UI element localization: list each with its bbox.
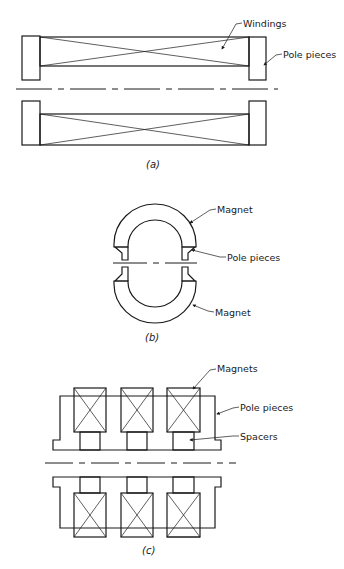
- label-magnet-bottom: Magnet: [215, 307, 251, 318]
- pole-pieces-lower: [53, 477, 221, 528]
- pole-piece-lower-left: [115, 267, 128, 281]
- lens-diagram: Windings Pole pieces (a) Magnet Pole pie…: [0, 0, 344, 569]
- label-pole-pieces-b: Pole pieces: [227, 252, 280, 263]
- spacer-lower-2: [127, 477, 147, 493]
- label-pole-pieces-c: Pole pieces: [240, 402, 293, 413]
- caption-a: (a): [146, 159, 160, 170]
- label-windings: Windings: [243, 18, 287, 29]
- pole-piece-upper-left: [115, 247, 128, 260]
- spacer-upper-3: [173, 432, 194, 450]
- caption-b: (b): [145, 332, 159, 343]
- label-pole-pieces-a: Pole pieces: [283, 49, 336, 60]
- panel-c-periodic-magnet-stack: Magnets Pole pieces Spacers (c): [45, 363, 293, 556]
- magnet-upper: [114, 204, 196, 247]
- caption-c: (c): [142, 545, 155, 556]
- spacer-upper-2: [127, 432, 147, 450]
- pole-piece-lower-right: [182, 267, 195, 281]
- pole-piece-left-upper: [22, 36, 40, 80]
- label-spacers: Spacers: [240, 431, 278, 442]
- panel-b-permanent-magnet: Magnet Pole pieces Magnet (b): [113, 204, 280, 343]
- spacer-lower-1: [80, 477, 100, 493]
- pole-pieces-upper: [53, 396, 221, 450]
- spacer-upper-1: [80, 432, 100, 450]
- spacer-lower-3: [173, 477, 194, 493]
- pole-piece-right-lower: [249, 101, 266, 145]
- panel-a-solenoid: Windings Pole pieces (a): [16, 18, 336, 170]
- magnet-block-upper-1: [74, 388, 106, 432]
- label-magnets: Magnets: [217, 363, 258, 374]
- magnet-block-lower-3: [167, 493, 200, 537]
- magnet-block-upper-2: [121, 388, 153, 432]
- magnet-block-lower-2: [121, 493, 153, 537]
- pole-piece-left-lower: [22, 101, 40, 145]
- magnet-lower: [114, 281, 196, 323]
- pole-piece-upper-right: [182, 247, 195, 260]
- magnet-block-lower-1: [74, 493, 106, 537]
- magnet-block-upper-3: [167, 388, 200, 432]
- pole-piece-right-upper: [249, 37, 266, 80]
- label-magnet-top: Magnet: [217, 204, 253, 215]
